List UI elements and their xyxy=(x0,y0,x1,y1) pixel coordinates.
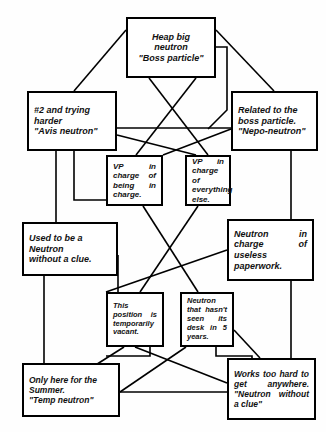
org-node-label: This position is temporarily vacant. xyxy=(113,302,157,337)
org-node-overworked: Works too hard to get anywhere. "Neutron… xyxy=(227,358,316,420)
connector-paperwork-to-vacant-branch xyxy=(106,250,227,292)
connector-avis-to-vp-right xyxy=(117,135,196,155)
org-node-label: Used to be a Neutron without a clue. xyxy=(29,233,111,265)
org-node-avis: #2 and trying harder "Avis neutron" xyxy=(27,91,117,151)
org-node-label: Heap big neutron "Boss particle" xyxy=(133,32,209,64)
org-node-clueless: Used to be a Neutron without a clue. xyxy=(22,222,118,276)
org-node-label: Neutron that hasn't seen its desk in 5 y… xyxy=(187,297,227,341)
org-node-label: Works too hard to get anywhere. "Neutron… xyxy=(234,369,309,409)
org-node-label: VP in charge of being in charge. xyxy=(113,162,156,200)
org-node-vp-everything: VP in charge of everything else. xyxy=(185,155,231,206)
org-chart-page: Heap big neutron "Boss particle"#2 and t… xyxy=(0,0,326,432)
org-node-label: #2 and trying harder "Avis neutron" xyxy=(34,105,110,137)
org-node-label: VP in charge of everything else. xyxy=(192,157,224,204)
connector-avis-to-vacant-spine xyxy=(74,151,106,200)
org-node-nepo: Related to the boss particle. "Nepo-neut… xyxy=(231,91,318,151)
connector-boss-to-vp-charge xyxy=(136,78,196,155)
connector-boss-to-nepo xyxy=(216,30,274,91)
org-node-label: Only here for the Summer. "Temp neutron" xyxy=(29,375,113,405)
org-node-vacant: This position is temporarily vacant. xyxy=(106,292,164,347)
connector-nodesk-to-bottom-hook2 xyxy=(216,347,252,358)
connector-boss-to-avis xyxy=(74,30,126,91)
connector-vacant-to-overworked-a xyxy=(135,347,227,383)
connector-nodesk-to-overworked-b xyxy=(234,330,260,358)
org-node-label: Neutron in charge of useless paperwork. xyxy=(234,229,307,271)
org-node-paperwork: Neutron in charge of useless paperwork. xyxy=(227,219,314,281)
org-node-nodesk: Neutron that hasn't seen its desk in 5 y… xyxy=(180,292,234,347)
org-node-label: Related to the boss particle. "Nepo-neut… xyxy=(238,105,311,137)
org-node-boss: Heap big neutron "Boss particle" xyxy=(126,17,216,78)
connector-boss-to-vp-everything xyxy=(149,78,208,155)
connector-nepo-to-vp-left xyxy=(163,129,231,155)
org-node-temp: Only here for the Summer. "Temp neutron" xyxy=(22,363,120,417)
org-node-vp-charge: VP in charge of being in charge. xyxy=(106,155,163,206)
